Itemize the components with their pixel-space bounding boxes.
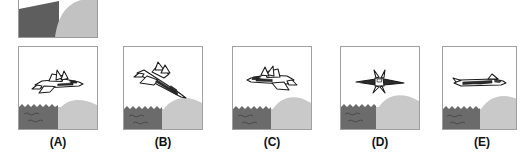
option-b[interactable]: (B) <box>123 46 203 149</box>
option-c-frame[interactable] <box>232 46 312 130</box>
jet-holder-e <box>443 47 517 129</box>
option-e-frame[interactable] <box>442 46 517 130</box>
option-d-label: (D) <box>340 135 420 149</box>
option-d[interactable]: (D) <box>340 46 420 149</box>
reference-panel <box>18 0 98 38</box>
option-a-label: (A) <box>18 135 98 149</box>
jet-icon <box>130 61 194 105</box>
jet-holder-b <box>124 47 202 129</box>
reference-scene-svg <box>19 0 97 37</box>
option-a-frame[interactable] <box>18 46 98 130</box>
option-c[interactable]: (C) <box>232 46 312 149</box>
jet-holder-d <box>341 47 419 129</box>
option-b-frame[interactable] <box>123 46 203 130</box>
option-a[interactable]: (A) <box>18 46 98 149</box>
jet-icon <box>27 65 87 99</box>
option-c-label: (C) <box>232 135 312 149</box>
jet-icon <box>354 69 406 97</box>
jet-icon <box>451 71 509 93</box>
options-row: (A) <box>0 46 516 158</box>
option-e-label: (E) <box>442 135 521 149</box>
jet-holder-a <box>19 47 97 129</box>
option-d-frame[interactable] <box>340 46 420 130</box>
option-b-label: (B) <box>123 135 203 149</box>
jet-holder-c <box>233 47 311 129</box>
jet-icon <box>243 63 301 99</box>
option-e[interactable]: (E) <box>442 46 521 149</box>
